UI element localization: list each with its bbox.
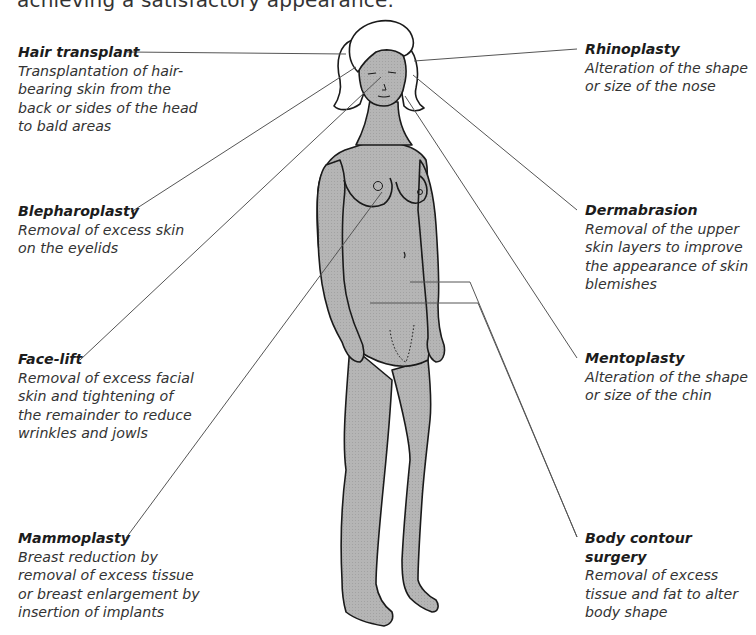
procedure-desc: Alteration of the shape [585, 368, 755, 387]
procedure-title: Blepharoplasty [18, 202, 258, 221]
procedure-desc: bearing skin from the [18, 80, 258, 99]
procedure-title: Dermabrasion [585, 201, 755, 220]
procedure-title: Mammoplasty [18, 529, 258, 548]
procedure-desc: skin and tightening of [18, 387, 258, 406]
label-face-lift: Face-lift Removal of excess facial skin … [18, 350, 258, 443]
procedure-desc: back or sides of the head [18, 99, 258, 118]
procedure-desc: or size of the chin [585, 386, 755, 405]
procedure-desc: Breast reduction by [18, 548, 258, 567]
procedure-desc: or size of the nose [585, 77, 755, 96]
procedure-title: Hair transplant [18, 43, 258, 62]
label-hair-transplant: Hair transplant Transplantation of hair-… [18, 43, 258, 136]
procedure-desc: skin layers to improve [585, 238, 755, 257]
procedure-desc: blemishes [585, 275, 755, 294]
procedure-desc: the appearance of skin [585, 257, 755, 276]
procedure-desc: Removal of the upper [585, 220, 755, 239]
procedure-desc: Alteration of the shape [585, 59, 755, 78]
procedure-desc: removal of excess tissue [18, 566, 258, 585]
procedure-desc: insertion of implants [18, 603, 258, 622]
procedure-desc: on the eyelids [18, 239, 258, 258]
label-body-contour-surgery: Body contour surgery Removal of excess t… [585, 529, 755, 622]
procedure-title: Rhinoplasty [585, 40, 755, 59]
procedure-desc: to bald areas [18, 117, 258, 136]
label-mentoplasty: Mentoplasty Alteration of the shape or s… [585, 349, 755, 405]
procedure-desc: Transplantation of hair- [18, 62, 258, 81]
procedure-title: Mentoplasty [585, 349, 755, 368]
label-rhinoplasty: Rhinoplasty Alteration of the shape or s… [585, 40, 755, 96]
procedure-title: Face-lift [18, 350, 258, 369]
procedure-desc: or breast enlargement by [18, 585, 258, 604]
procedure-desc: the remainder to reduce [18, 406, 258, 425]
figure-body [317, 21, 444, 626]
leader-rhinoplasty [414, 49, 577, 61]
procedure-desc: body shape [585, 603, 755, 622]
procedure-desc: wrinkles and jowls [18, 424, 258, 443]
leader-dermabrasion [413, 75, 577, 210]
procedure-desc: Removal of excess facial [18, 369, 258, 388]
procedure-desc: Removal of excess [585, 566, 755, 585]
label-mammoplasty: Mammoplasty Breast reduction by removal … [18, 529, 258, 622]
label-blepharoplasty: Blepharoplasty Removal of excess skin on… [18, 202, 258, 258]
procedure-desc: tissue and fat to alter [585, 585, 755, 604]
procedure-title: Body contour surgery [585, 529, 755, 566]
label-dermabrasion: Dermabrasion Removal of the upper skin l… [585, 201, 755, 294]
procedure-desc: Removal of excess skin [18, 221, 258, 240]
